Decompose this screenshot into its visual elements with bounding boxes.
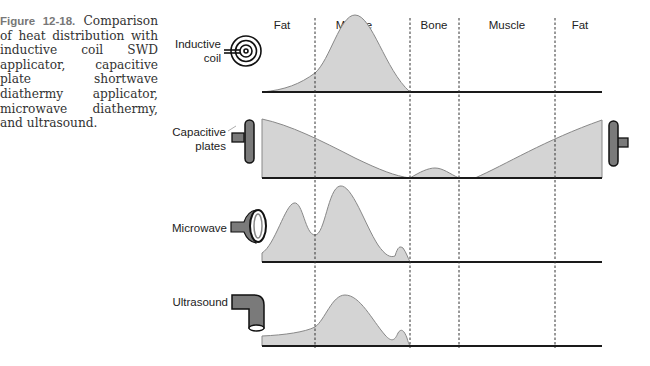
- heat-distribution-diagram: Fat Muscle Bone Muscle Fat Inductive coi…: [0, 0, 650, 366]
- capacitive-plate-icon-right: [609, 121, 628, 166]
- label-ultrasound: Ultrasound: [172, 296, 228, 308]
- layer-label-muscle-right: Muscle: [489, 19, 525, 31]
- heat-curve-ultrasound: [262, 295, 410, 346]
- row-microwave: Microwave: [172, 186, 602, 262]
- row-ultrasound: Ultrasound: [172, 295, 602, 346]
- label-inductive: Inductive: [175, 38, 221, 50]
- label-capacitive: Capacitive: [172, 126, 226, 138]
- microwave-applicator-icon: [231, 210, 266, 243]
- row-inductive-coil: Inductive coil: [175, 15, 602, 92]
- row-capacitive-plates: Capacitive plates: [172, 119, 628, 178]
- layer-label-fat-right: Fat: [572, 19, 589, 31]
- spiral-coil-icon: [224, 36, 261, 66]
- layer-label-bone: Bone: [421, 19, 448, 31]
- layer-label-fat-left: Fat: [274, 19, 291, 31]
- ultrasound-transducer-icon: [232, 295, 264, 331]
- label-leader-line: [228, 126, 236, 131]
- label-microwave: Microwave: [172, 222, 227, 234]
- label-coil: coil: [204, 52, 221, 64]
- heat-curve-capacitive: [262, 119, 602, 178]
- heat-curve-microwave: [262, 186, 410, 262]
- label-plates: plates: [195, 140, 226, 152]
